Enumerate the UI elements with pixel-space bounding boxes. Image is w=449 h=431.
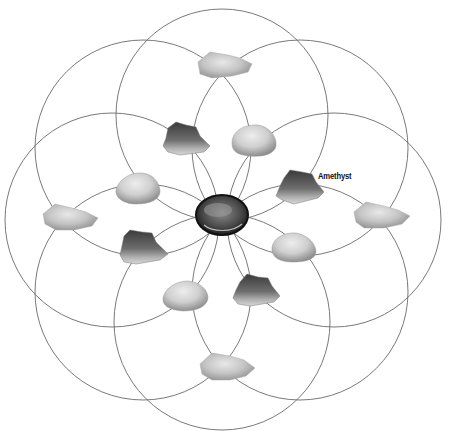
- amethyst-label: Amethyst: [318, 171, 352, 181]
- tumbled-stone-upper-left: [116, 173, 160, 204]
- clear-crystal-bottom: [200, 353, 255, 380]
- amethyst-left: [120, 230, 168, 264]
- amethyst-upper-left: [163, 122, 210, 155]
- amethyst-lower-right: [233, 274, 280, 306]
- center-stone: [196, 195, 248, 235]
- tumbled-stone-lower-left: [163, 281, 208, 311]
- crystal-grid-diagram: Amethyst: [0, 0, 449, 431]
- amethyst-right: [276, 170, 324, 204]
- grid-lines: [0, 0, 449, 431]
- tumbled-stone-upper-right: [232, 125, 276, 156]
- tumbled-stone-right: [272, 233, 316, 262]
- clear-crystal-left: [43, 204, 98, 230]
- clear-crystal-right: [354, 202, 410, 228]
